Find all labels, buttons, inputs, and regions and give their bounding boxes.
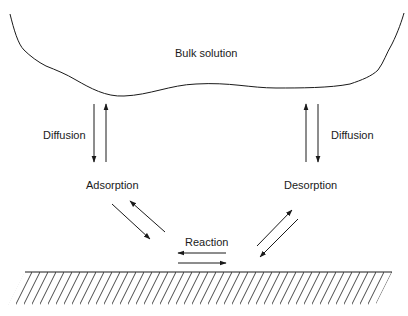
adsorption-up-arrow <box>130 201 165 232</box>
adsorption-down-arrow <box>112 204 150 239</box>
diagram-canvas: Bulk solution Diffusion Diffusion Adsorp… <box>0 0 408 316</box>
diffusion-left-label: Diffusion <box>43 130 86 141</box>
desorption-down-arrow <box>260 219 298 257</box>
reaction-label: Reaction <box>185 237 228 248</box>
diffusion-right-label: Diffusion <box>331 130 374 141</box>
solid-surface <box>8 272 392 306</box>
desorption-label: Desorption <box>284 180 337 191</box>
adsorption-label: Adsorption <box>86 180 139 191</box>
bulk-solution-label: Bulk solution <box>175 48 237 59</box>
desorption-up-arrow <box>257 210 292 246</box>
